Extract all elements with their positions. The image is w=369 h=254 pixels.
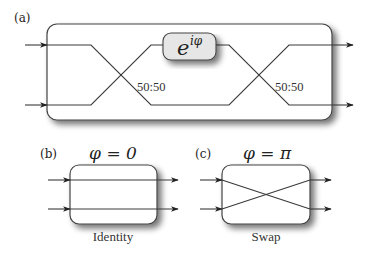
- identity-box: [70, 165, 157, 224]
- phase-shifter-base: e: [177, 36, 189, 60]
- beam-splitter-2-ratio: 50:50: [275, 80, 303, 94]
- swap-caption: Swap: [252, 229, 281, 244]
- panel-b-condition: φ = 0: [89, 143, 137, 163]
- panel-c-label: (c): [195, 147, 211, 161]
- panel-b-label: (b): [40, 147, 57, 161]
- phase-shifter: e iφ: [163, 33, 216, 60]
- phase-shifter-exponent: iφ: [190, 34, 203, 48]
- panel-a-label: (a): [14, 11, 31, 25]
- panel-a: (a) 50:50 50:50 e iφ: [14, 11, 353, 120]
- panel-c-condition: φ = π: [243, 143, 292, 163]
- identity-caption: Identity: [93, 229, 134, 244]
- beam-splitter-1-ratio: 50:50: [137, 80, 165, 94]
- panel-b: (b) φ = 0 Identity: [40, 143, 178, 244]
- panel-c: (c) φ = π Swap: [195, 143, 331, 244]
- mzi-figure: (a) 50:50 50:50 e iφ (b) φ = 0: [0, 0, 369, 254]
